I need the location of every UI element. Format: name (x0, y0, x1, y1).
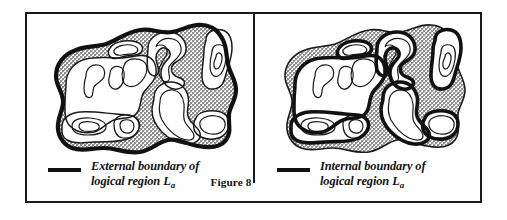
legend-internal-line1: Internal boundary of (320, 159, 485, 174)
thick-line-swatch-icon (48, 168, 81, 172)
figure-8-illustration: External boundary of logical region La (0, 0, 507, 220)
legend-internal-line2: logical region La (320, 174, 485, 193)
region-diagram-internal (255, 14, 483, 162)
legend-region-symbol: L (392, 174, 399, 188)
legend-region-prefix: logical region (91, 174, 163, 188)
thick-line-swatch-icon (277, 168, 310, 172)
panel-internal-boundary: Internal boundary of logical region La (255, 12, 483, 203)
legend-region-subscript: a (171, 180, 176, 190)
legend-internal-text: Internal boundary of logical region La (320, 159, 485, 192)
legend-region-symbol: L (163, 174, 170, 188)
figure-label: Figure 8 (203, 176, 259, 188)
legend-external-line1: External boundary of (91, 159, 256, 174)
region-diagram-external (26, 14, 254, 162)
legend-internal: Internal boundary of logical region La (277, 162, 483, 202)
legend-region-prefix: logical region (320, 174, 392, 188)
legend-region-subscript: a (400, 180, 405, 190)
panel-external-boundary: External boundary of logical region La (26, 12, 254, 203)
